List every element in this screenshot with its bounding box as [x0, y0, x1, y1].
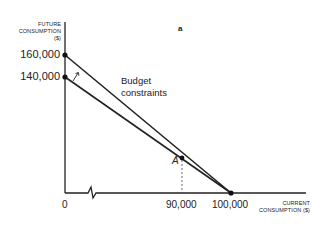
x-tick-90000: 90,000 — [166, 199, 197, 210]
point-a-dot — [180, 156, 185, 161]
intercept-dot-140000 — [62, 74, 67, 79]
legend-line1: Budget — [121, 75, 167, 87]
intercept-dot-160000 — [62, 52, 67, 57]
panel-label: a — [178, 24, 182, 33]
legend-line2: constraints — [121, 87, 167, 99]
y-tick-160000: 160,000 — [8, 48, 60, 60]
y-axis-label-line1: FUTURE — [30, 21, 61, 28]
x-axis — [65, 187, 306, 198]
y-axis-label: FUTURE — [30, 21, 61, 28]
shift-arrow-icon — [73, 73, 78, 81]
point-a-label: A — [172, 155, 179, 166]
y-tick-140000: 140,000 — [8, 70, 60, 82]
x-tick-100000: 100,000 — [212, 199, 248, 210]
legend-budget-constraints: Budget constraints — [121, 75, 167, 99]
x-axis-label-line1: CURRENT — [260, 200, 310, 207]
y-axis-label-line2: CONSUMPTION — [10, 28, 61, 35]
y-axis-label-line3: ($) — [30, 35, 61, 42]
x-tick-0: 0 — [62, 199, 68, 210]
intercept-dot-100000 — [228, 190, 233, 195]
x-axis-label-line2: CONSUMPTION ($) — [250, 207, 310, 214]
